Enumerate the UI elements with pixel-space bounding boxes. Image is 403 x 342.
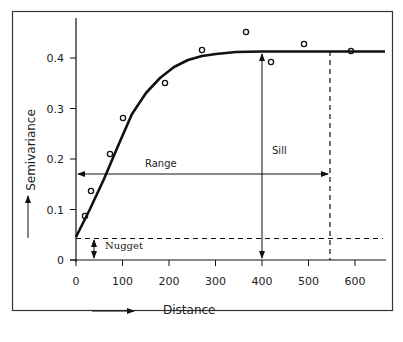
x-ticks xyxy=(76,260,355,266)
y-tick-label: 0.3 xyxy=(47,103,65,116)
x-tick-label: 0 xyxy=(73,275,80,288)
y-tick-label: 0.4 xyxy=(47,52,65,65)
x-tick-label: 500 xyxy=(298,275,319,288)
data-points xyxy=(82,29,353,218)
x-tick-label: 400 xyxy=(252,275,273,288)
x-tick-labels: 0 100 200 300 400 500 600 xyxy=(73,275,366,288)
data-point xyxy=(199,47,204,52)
range-label: Range xyxy=(145,158,177,169)
y-ticks xyxy=(70,58,76,260)
data-point xyxy=(107,151,112,156)
nugget-label: Nugget xyxy=(105,240,143,251)
y-tick-label: 0 xyxy=(57,254,64,267)
y-tick-label: 0.2 xyxy=(47,153,65,166)
sill-label: Sill xyxy=(272,145,287,156)
x-tick-label: 100 xyxy=(112,275,133,288)
x-tick-label: 300 xyxy=(205,275,226,288)
y-axis-title: Semivariance xyxy=(24,109,38,191)
data-point xyxy=(268,59,273,64)
data-point xyxy=(243,29,248,34)
data-point xyxy=(120,115,125,120)
x-axis-title: Distance xyxy=(163,303,215,317)
variogram-model-curve xyxy=(76,52,385,238)
data-point xyxy=(88,188,93,193)
data-point xyxy=(301,41,306,46)
figure-frame xyxy=(13,12,393,155)
y-tick-labels: 0 0.1 0.2 0.3 0.4 xyxy=(47,52,65,267)
x-tick-label: 600 xyxy=(345,275,366,288)
data-point xyxy=(162,80,167,85)
x-tick-label: 200 xyxy=(159,275,180,288)
semivariogram-figure: 0 0.1 0.2 0.3 0.4 0 100 200 300 400 500 … xyxy=(0,0,403,342)
y-tick-label: 0.1 xyxy=(47,204,65,217)
